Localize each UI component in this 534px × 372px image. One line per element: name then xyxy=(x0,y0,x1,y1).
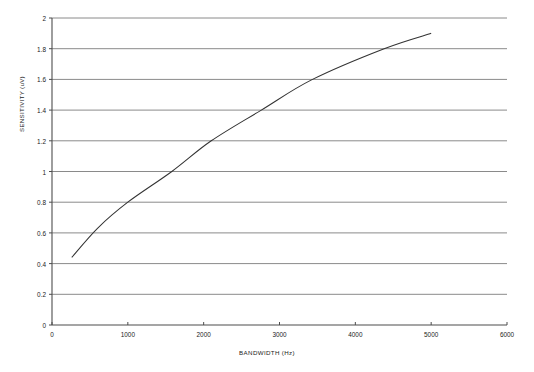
y-axis-title: SENSITIVITY (uV) xyxy=(18,76,25,132)
y-tick-label: 1.4 xyxy=(18,107,46,114)
gridlines xyxy=(52,18,507,294)
x-tick-label: 3000 xyxy=(272,331,286,338)
x-tick-label: 1000 xyxy=(121,331,135,338)
y-tick-label: 0.8 xyxy=(18,199,46,206)
data-series-line xyxy=(72,33,431,257)
chart-plot-area xyxy=(0,0,534,372)
y-tick-label: 1.2 xyxy=(18,137,46,144)
y-tick-label: 1 xyxy=(18,168,46,175)
y-tick-label: 1.8 xyxy=(18,45,46,52)
y-tick-label: 0 xyxy=(18,322,46,329)
x-axis-title: BANDWIDTH (Hz) xyxy=(0,349,534,356)
x-tick-label: 2000 xyxy=(197,331,211,338)
x-tick-label: 5000 xyxy=(424,331,438,338)
y-tick-label: 0.4 xyxy=(18,260,46,267)
x-tick-label: 0 xyxy=(50,331,54,338)
chart-figure: SENSITIVITY (uV) BANDWIDTH (Hz) 00.20.40… xyxy=(0,0,534,372)
y-tick-label: 0.6 xyxy=(18,229,46,236)
y-tick-label: 2 xyxy=(18,15,46,22)
y-tick-label: 0.2 xyxy=(18,291,46,298)
y-tick-label: 1.6 xyxy=(18,76,46,83)
x-tick-label: 4000 xyxy=(348,331,362,338)
x-tick-label: 6000 xyxy=(500,331,514,338)
